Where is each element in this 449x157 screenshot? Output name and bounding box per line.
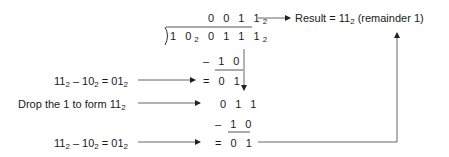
step2-subtrahend: – 1 0	[215, 118, 254, 130]
annotation-subtraction-2: 112 – 102 = 012	[54, 137, 128, 149]
annotation-subtraction-1: 112 – 102 = 012	[54, 75, 128, 87]
step1-difference: = 0 1	[203, 75, 243, 87]
divisor: 1 02	[170, 30, 202, 42]
result-label: Result = 112 (remainder 1)	[295, 12, 424, 24]
brought-down-value: 0 1 1	[220, 98, 259, 110]
base-subscript: 2	[263, 35, 270, 44]
quotient: 0 0 1 12	[208, 12, 270, 24]
step1-subtrahend: – 1 0	[203, 55, 242, 67]
base-subscript: 2	[194, 35, 201, 44]
base-subscript: 2	[263, 17, 270, 26]
step2-difference: = 0 1	[215, 137, 255, 149]
annotation-drop-digit: Drop the 1 to form 112	[18, 98, 126, 110]
dividend: 0 1 1 12	[208, 30, 270, 42]
